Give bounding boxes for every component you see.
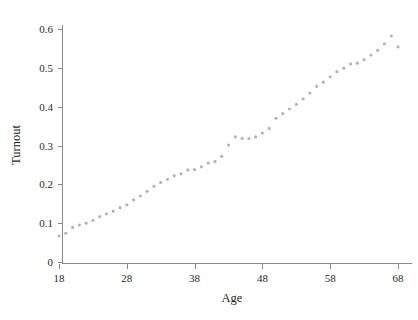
x-tick-layer: 182838485868: [54, 264, 405, 285]
data-point: [220, 155, 223, 158]
data-point: [159, 181, 162, 184]
data-point: [139, 194, 142, 197]
data-point: [118, 206, 121, 209]
axis-layer: [63, 25, 413, 264]
scatter-plot: 00.10.20.30.40.50.6 182838485868 Turnout…: [0, 0, 418, 320]
data-point: [335, 70, 338, 73]
data-point: [390, 34, 393, 37]
data-point: [261, 131, 264, 134]
data-point: [363, 58, 366, 61]
y-tick-label: 0.5: [39, 62, 53, 74]
data-point: [64, 232, 67, 235]
data-point-layer: [57, 34, 399, 237]
data-point: [166, 178, 169, 181]
y-axis-title: Turnout: [9, 125, 23, 165]
y-tick-layer: 00.10.20.30.40.50.6: [39, 23, 62, 268]
y-tick-label: 0.2: [39, 178, 53, 190]
data-point: [98, 215, 101, 218]
data-point: [295, 103, 298, 106]
data-point: [396, 45, 399, 48]
data-point: [281, 112, 284, 115]
data-point: [301, 97, 304, 100]
data-point: [200, 165, 203, 168]
data-point: [254, 135, 257, 138]
data-point: [383, 42, 386, 45]
y-tick-label: 0.1: [39, 217, 53, 229]
data-point: [308, 91, 311, 94]
data-point: [71, 226, 74, 229]
x-tick-label: 58: [325, 272, 337, 284]
y-tick-label: 0: [48, 256, 54, 268]
x-tick-label: 28: [121, 272, 133, 284]
data-point: [146, 190, 149, 193]
data-point: [329, 75, 332, 78]
data-point: [356, 62, 359, 65]
data-point: [207, 161, 210, 164]
data-point: [105, 212, 108, 215]
data-point: [315, 85, 318, 88]
y-tick-label: 0.4: [39, 101, 53, 113]
y-tick-label: 0.6: [39, 23, 53, 35]
data-point: [112, 210, 115, 213]
data-point: [342, 67, 345, 70]
data-point: [85, 222, 88, 225]
data-point: [268, 127, 271, 130]
data-point: [91, 219, 94, 222]
data-point: [132, 198, 135, 201]
data-point: [186, 168, 189, 171]
y-tick-label: 0.3: [39, 140, 53, 152]
data-point: [173, 174, 176, 177]
data-point: [240, 137, 243, 140]
data-point: [376, 49, 379, 52]
data-point: [193, 168, 196, 171]
data-point: [152, 185, 155, 188]
chart-figure: 00.10.20.30.40.50.6 182838485868 Turnout…: [0, 0, 418, 320]
x-tick-label: 68: [393, 272, 405, 284]
data-point: [125, 203, 128, 206]
x-axis-title: Age: [222, 291, 243, 305]
data-point: [57, 234, 60, 237]
data-point: [247, 137, 250, 140]
data-point: [369, 53, 372, 56]
x-tick-label: 18: [54, 272, 66, 284]
data-point: [322, 81, 325, 84]
data-point: [78, 224, 81, 227]
data-point: [234, 135, 237, 138]
data-point: [179, 172, 182, 175]
data-point: [227, 144, 230, 147]
x-tick-label: 48: [257, 272, 269, 284]
data-point: [288, 107, 291, 110]
data-point: [274, 117, 277, 120]
data-point: [349, 62, 352, 65]
data-point: [213, 160, 216, 163]
x-tick-label: 38: [189, 272, 201, 284]
